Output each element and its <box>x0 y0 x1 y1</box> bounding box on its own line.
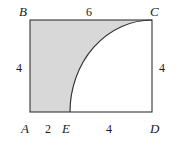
length-label-top: 6 <box>86 6 92 18</box>
vertex-label-c: C <box>150 5 159 18</box>
geometry-figure: B C A D E 6 4 4 2 4 <box>0 0 181 143</box>
length-label-bottom-left: 2 <box>45 123 51 135</box>
vertex-label-b: B <box>19 5 27 18</box>
shaded-region <box>30 20 152 112</box>
vertex-label-d: D <box>150 122 159 135</box>
length-label-right: 4 <box>159 62 165 74</box>
vertex-label-e: E <box>62 122 70 135</box>
length-label-bottom-right: 4 <box>106 123 112 135</box>
vertex-label-a: A <box>21 122 29 135</box>
length-label-left: 4 <box>16 62 22 74</box>
